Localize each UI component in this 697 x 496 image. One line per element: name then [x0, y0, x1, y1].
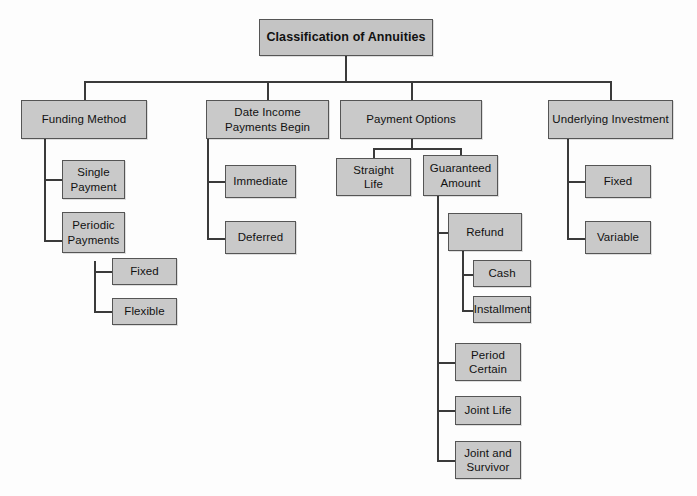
node-period-certain[interactable]: Period Certain [455, 343, 521, 381]
connector-to-immediate [207, 181, 225, 183]
node-cash[interactable]: Cash [473, 260, 531, 287]
connector-top-bus [84, 81, 611, 83]
connector-to-periodic-payments [44, 240, 62, 242]
node-label: Cash [485, 266, 518, 280]
connector-payment-options-bus [373, 148, 461, 150]
connector-underlying-investment-trunk [567, 139, 569, 239]
connector-drop-payment-options [411, 81, 413, 101]
node-underlying-variable[interactable]: Variable [585, 221, 651, 254]
connector-guaranteed-amount-trunk [437, 196, 439, 461]
node-single-payment[interactable]: Single Payment [62, 160, 125, 199]
node-payment-options[interactable]: Payment Options [340, 100, 482, 139]
node-label: Straight Life [350, 163, 396, 191]
node-joint-and-survivor[interactable]: Joint and Survivor [455, 441, 521, 479]
connector-drop-underlying-investment [610, 81, 612, 101]
node-installment[interactable]: Installment [473, 296, 531, 323]
node-periodic-payments[interactable]: Periodic Payments [62, 212, 125, 253]
connector-to-ui-fixed [567, 181, 585, 183]
node-immediate[interactable]: Immediate [225, 165, 296, 198]
node-deferred[interactable]: Deferred [225, 221, 296, 254]
annuities-classification-diagram: Classification of Annuities Funding Meth… [0, 0, 697, 496]
connector-to-joint-and-survivor [437, 460, 455, 462]
connector-periodic-payments-trunk [94, 261, 96, 312]
connector-drop-funding-method [84, 81, 86, 101]
node-label: Payment Options [363, 112, 459, 126]
connector-drop-date-income [267, 81, 269, 101]
node-label: Periodic Payments [65, 218, 123, 246]
node-straight-life[interactable]: Straight Life [336, 158, 411, 196]
node-underlying-investment[interactable]: Underlying Investment [548, 100, 673, 139]
connector-root-stem [345, 56, 347, 82]
connector-to-period-certain [437, 362, 455, 364]
connector-refund-trunk [462, 251, 464, 311]
node-date-income-payments-begin[interactable]: Date Income Payments Begin [206, 100, 329, 139]
connector-to-ui-variable [567, 238, 585, 240]
node-joint-life[interactable]: Joint Life [455, 396, 521, 425]
connector-to-deferred [207, 238, 225, 240]
node-label: Joint Life [461, 403, 514, 417]
node-label: Underlying Investment [549, 112, 672, 126]
node-label: Period Certain [466, 348, 510, 376]
node-label: Fixed [601, 174, 636, 188]
node-refund[interactable]: Refund [448, 213, 522, 251]
node-funding-flexible[interactable]: Flexible [112, 298, 177, 325]
node-label: Flexible [121, 304, 167, 318]
node-label: Classification of Annuities [263, 30, 428, 45]
node-label: Fixed [127, 264, 162, 278]
node-label: Date Income Payments Begin [222, 105, 313, 133]
node-label: Deferred [235, 230, 287, 244]
node-guaranteed-amount[interactable]: Guaranteed Amount [423, 155, 498, 196]
connector-date-income-trunk [207, 139, 209, 239]
node-label: Variable [594, 230, 642, 244]
node-label: Single Payment [67, 165, 119, 193]
connector-to-joint-life [437, 410, 455, 412]
node-label: Funding Method [39, 112, 130, 126]
connector-to-fm-flexible [94, 311, 112, 313]
node-label: Installment [471, 302, 534, 316]
connector-to-fm-fixed [94, 271, 112, 273]
node-funding-method[interactable]: Funding Method [21, 100, 147, 139]
node-label: Refund [463, 225, 507, 239]
connector-to-single-payment [44, 179, 62, 181]
node-root-classification-of-annuities[interactable]: Classification of Annuities [259, 19, 433, 56]
node-label: Immediate [230, 174, 291, 188]
node-label: Guaranteed Amount [427, 161, 495, 189]
node-funding-fixed[interactable]: Fixed [112, 258, 177, 285]
connector-payment-options-stem [411, 139, 413, 149]
node-underlying-fixed[interactable]: Fixed [585, 165, 651, 198]
node-label: Joint and Survivor [461, 446, 515, 474]
connector-funding-method-trunk [44, 139, 46, 241]
